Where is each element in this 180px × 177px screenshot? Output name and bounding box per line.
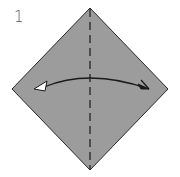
diagram-graphic: [0, 0, 180, 177]
origami-diagram: 1: [0, 0, 180, 177]
